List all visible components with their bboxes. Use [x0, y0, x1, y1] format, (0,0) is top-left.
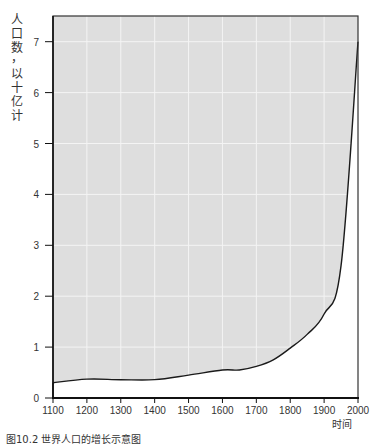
y-axis-label-char: 口 — [11, 28, 23, 41]
y-axis-label-char: ， — [11, 52, 23, 65]
figure-caption: 图10.2 世界人口的增长示意图 — [6, 431, 141, 446]
x-tick-label: 1700 — [245, 405, 268, 416]
x-axis-label: 时间 — [332, 416, 352, 431]
x-tick-label: 1100 — [42, 405, 64, 416]
y-tick-label: 6 — [33, 88, 39, 99]
x-tick-label: 1900 — [313, 405, 336, 416]
y-tick-label: 0 — [33, 393, 39, 404]
y-tick-label: 4 — [33, 189, 39, 200]
y-axis-label-char: 计 — [11, 110, 23, 123]
y-tick-label: 3 — [33, 240, 39, 251]
x-tick-label: 2000 — [347, 405, 370, 416]
x-tick-label: 1400 — [144, 405, 167, 416]
y-axis-label-char: 人 — [11, 14, 23, 27]
x-tick-label: 1500 — [177, 405, 200, 416]
x-tick-label: 1300 — [110, 405, 133, 416]
y-axis-label-char: 十 — [11, 82, 23, 95]
x-tick-label: 1200 — [76, 405, 99, 416]
y-tick-label: 2 — [33, 291, 39, 302]
y-axis-label-char: 亿 — [11, 96, 23, 109]
y-tick-label: 5 — [33, 139, 39, 150]
y-tick-label: 7 — [33, 37, 39, 48]
x-tick-label: 1800 — [279, 405, 302, 416]
x-tick-label: 1600 — [211, 405, 234, 416]
y-axis-label-char: 以 — [11, 68, 23, 81]
y-tick-label: 1 — [33, 342, 39, 353]
